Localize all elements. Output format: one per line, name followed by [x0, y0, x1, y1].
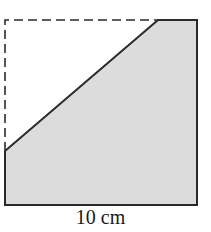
square-diagram [0, 0, 211, 232]
shaded-region [5, 20, 197, 205]
dimension-label: 10 cm [0, 206, 201, 228]
